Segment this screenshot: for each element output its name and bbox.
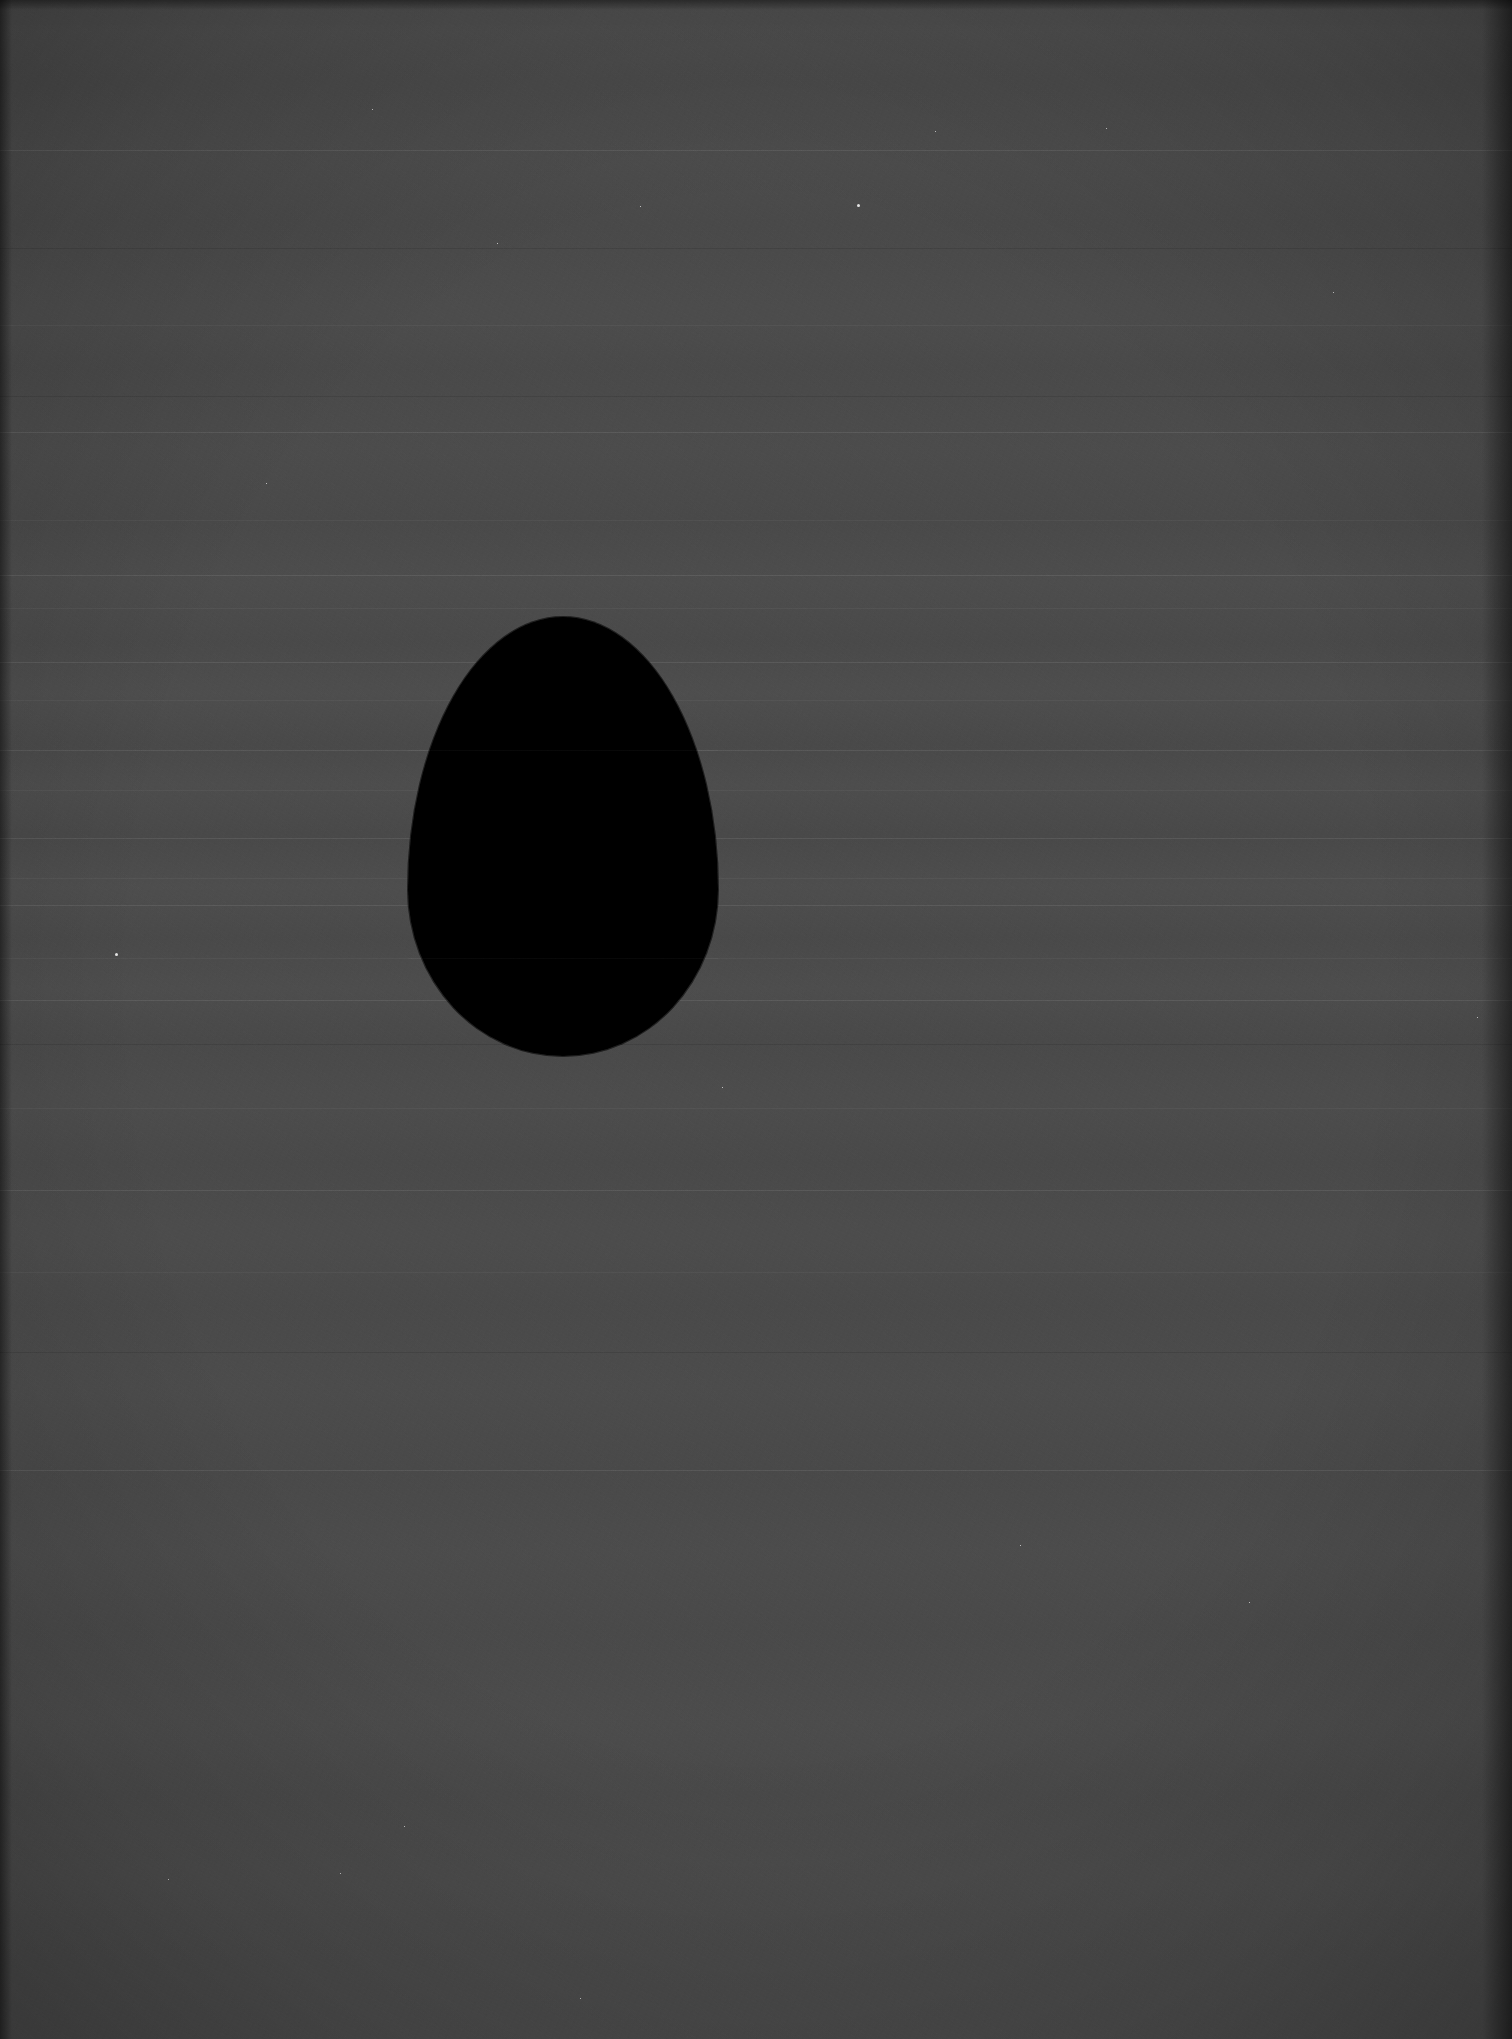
photo-background (0, 0, 1512, 2039)
photo-frame (0, 0, 1512, 2039)
egg-crossing-line (408, 958, 718, 959)
egg-crossing-line (408, 750, 718, 751)
